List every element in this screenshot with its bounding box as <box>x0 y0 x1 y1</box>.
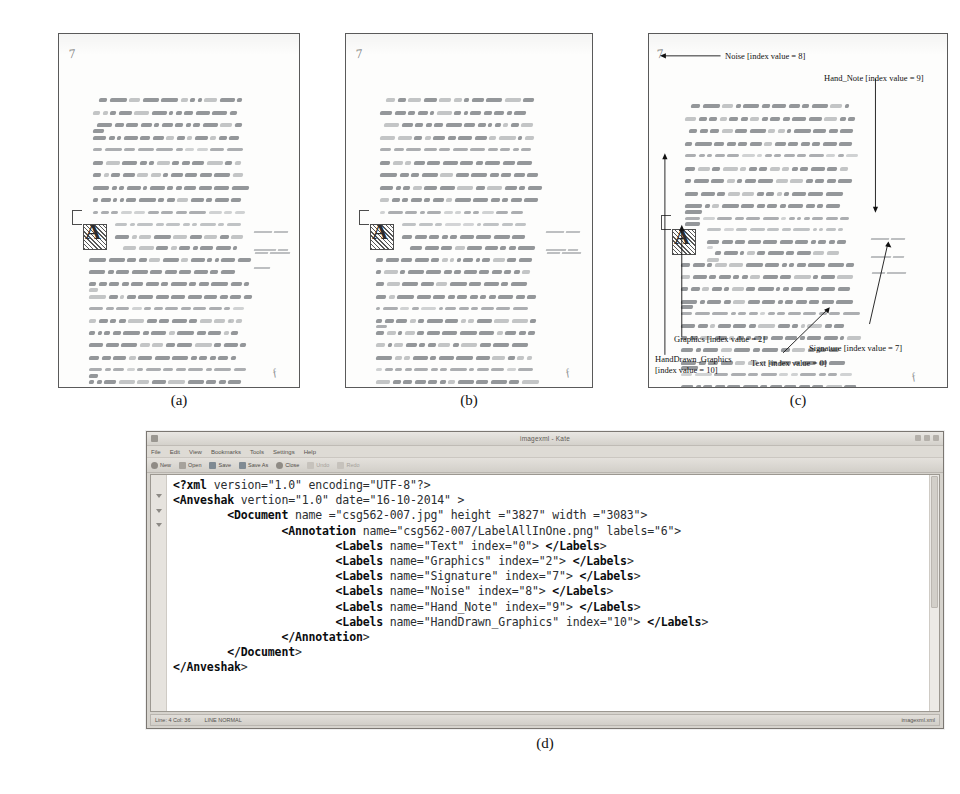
kate-menubar[interactable]: File Edit View Bookmarks Tools Settings … <box>147 446 943 458</box>
toolbar-redo-button[interactable]: Redo <box>337 462 359 469</box>
new-file-icon <box>151 462 158 469</box>
manuscript-text-line <box>376 356 540 360</box>
manuscript-text-line <box>115 223 245 227</box>
fold-triangle-icon[interactable] <box>156 509 162 513</box>
fold-triangle-icon[interactable] <box>156 523 162 527</box>
manuscript-text-line <box>691 104 856 108</box>
toolbar-save-button[interactable]: Save <box>209 462 231 469</box>
noise-speck-a <box>229 320 231 322</box>
code-line[interactable]: <Labels name="Hand_Note" index="9"> </La… <box>173 600 929 615</box>
toolbar-close-button[interactable]: Close <box>276 462 299 469</box>
annotation-label-noise: Noise [index value = 8] <box>725 51 805 62</box>
signature-mark-c: ƒ <box>909 369 918 382</box>
toolbar-new-button[interactable]: New <box>151 462 171 469</box>
manuscript-text-line <box>685 117 859 121</box>
manuscript-text-line <box>689 129 860 133</box>
close-button[interactable] <box>933 435 939 441</box>
code-line[interactable]: <Annotation name="csg562-007/LabelAllInO… <box>173 524 929 539</box>
manuscript-text-line <box>386 98 539 102</box>
code-line[interactable]: <Labels name="Graphics" index="2"> </Lab… <box>173 554 929 569</box>
menu-view[interactable]: View <box>189 449 202 455</box>
status-mode: LINE NORMAL <box>204 717 241 723</box>
manuscript-text-line <box>707 228 852 232</box>
save-icon <box>209 462 216 469</box>
manuscript-text-line <box>89 331 248 335</box>
menu-file[interactable]: File <box>151 449 161 455</box>
toolbar-close-label: Close <box>285 462 299 468</box>
menu-help[interactable]: Help <box>304 449 316 455</box>
toolbar-save-as-button[interactable]: Save As <box>239 462 268 469</box>
manuscript-text-line <box>715 251 853 255</box>
scrollbar-thumb[interactable] <box>931 476 938 608</box>
code-line[interactable]: </Document> <box>173 645 929 660</box>
manuscript-text-line <box>376 368 540 372</box>
fold-triangle-icon[interactable] <box>156 494 162 498</box>
manuscript-text-line <box>685 192 863 196</box>
folio-number-b: 7 <box>355 46 364 62</box>
manuscript-text-line <box>380 198 545 202</box>
vertical-scrollbar[interactable] <box>929 475 939 711</box>
caption-a: (a) <box>58 392 300 409</box>
xml-code-area[interactable]: <?xml version="1.0" encoding="UTF-8"?><A… <box>167 475 929 711</box>
toolbar-undo-label: Undo <box>316 462 329 468</box>
caption-d: (d) <box>146 735 944 752</box>
code-line[interactable]: <Document name ="csg562-007.jpg" height … <box>173 508 929 523</box>
minimize-button[interactable] <box>915 435 921 441</box>
menu-settings[interactable]: Settings <box>273 449 295 455</box>
toolbar-undo-button[interactable]: Undo <box>307 462 329 469</box>
subfigure-c-panel: 7 A ƒ <box>648 33 948 388</box>
manuscript-text-line <box>93 186 253 190</box>
kate-window-title: imagexml - Kate <box>147 435 943 442</box>
menu-edit[interactable]: Edit <box>170 449 180 455</box>
code-line[interactable]: </Anveshak> <box>173 660 929 675</box>
open-folder-icon <box>179 462 186 469</box>
toolbar-open-button[interactable]: Open <box>179 462 201 469</box>
marginalia-note-c2 <box>872 272 912 290</box>
code-line[interactable]: <Labels name="Signature" index="7"> </La… <box>173 569 929 584</box>
kate-toolbar[interactable]: New Open Save Save As Close Undo Redo <box>147 458 943 473</box>
kate-statusbar: Line: 4 Col: 36 LINE NORMAL imagexml.xml <box>150 714 940 726</box>
manuscript-text-line <box>89 368 248 372</box>
code-line[interactable]: <Labels name="HandDrawn_Graphics" index=… <box>173 615 929 630</box>
code-line[interactable]: <Anveshak vertion="1.0" date="16-10-2014… <box>173 493 929 508</box>
manuscript-text-line <box>681 385 863 388</box>
manuscript-text-line <box>89 270 248 274</box>
menu-bookmarks[interactable]: Bookmarks <box>211 449 241 455</box>
manuscript-text-line <box>402 235 540 239</box>
status-cursor-position: Line: 4 Col: 36 <box>155 717 190 723</box>
manuscript-text-line <box>681 312 864 316</box>
manuscript-text-line <box>380 148 541 152</box>
code-folding-gutter[interactable] <box>151 475 167 711</box>
manuscript-text-line <box>89 380 248 384</box>
code-line[interactable]: <Labels name="Noise" index="8"> </Labels… <box>173 584 929 599</box>
manuscript-text-line <box>685 142 857 146</box>
kate-titlebar[interactable]: imagexml - Kate <box>147 432 943 446</box>
manuscript-text-line <box>376 343 539 347</box>
manuscript-text-line <box>707 240 861 244</box>
close-icon <box>276 462 283 469</box>
manuscript-text-line <box>380 161 539 165</box>
manuscript-text-line <box>376 295 543 299</box>
code-line[interactable]: </Annotation> <box>173 630 929 645</box>
manuscript-text-line <box>89 356 248 360</box>
code-line[interactable]: <Labels name="Text" index="0"> </Labels> <box>173 539 929 554</box>
toolbar-redo-label: Redo <box>346 462 359 468</box>
menu-tools[interactable]: Tools <box>250 449 264 455</box>
annotation-label-hand-note: Hand_Note [index value = 9] <box>824 73 924 84</box>
manuscript-text-line <box>93 148 255 152</box>
kate-editor-body: <?xml version="1.0" encoding="UTF-8"?><A… <box>150 474 940 712</box>
manuscript-content-b: 7 A ƒ <box>346 34 592 387</box>
manuscript-text-line <box>402 223 535 227</box>
illuminated-initial-c: A <box>674 227 690 248</box>
maximize-button[interactable] <box>924 435 930 441</box>
toolbar-save-label: Save <box>218 462 231 468</box>
manuscript-text-line <box>93 173 252 177</box>
manuscript-page-c: 7 A ƒ <box>649 34 947 387</box>
window-controls[interactable] <box>915 435 939 441</box>
manuscript-text-line <box>380 111 540 115</box>
code-line[interactable]: <?xml version="1.0" encoding="UTF-8"?> <box>173 478 929 493</box>
manuscript-text-line <box>93 111 250 115</box>
manuscript-text-line <box>99 98 249 102</box>
manuscript-text-line <box>97 123 252 127</box>
status-document-type: imagexml.xml <box>901 717 935 723</box>
